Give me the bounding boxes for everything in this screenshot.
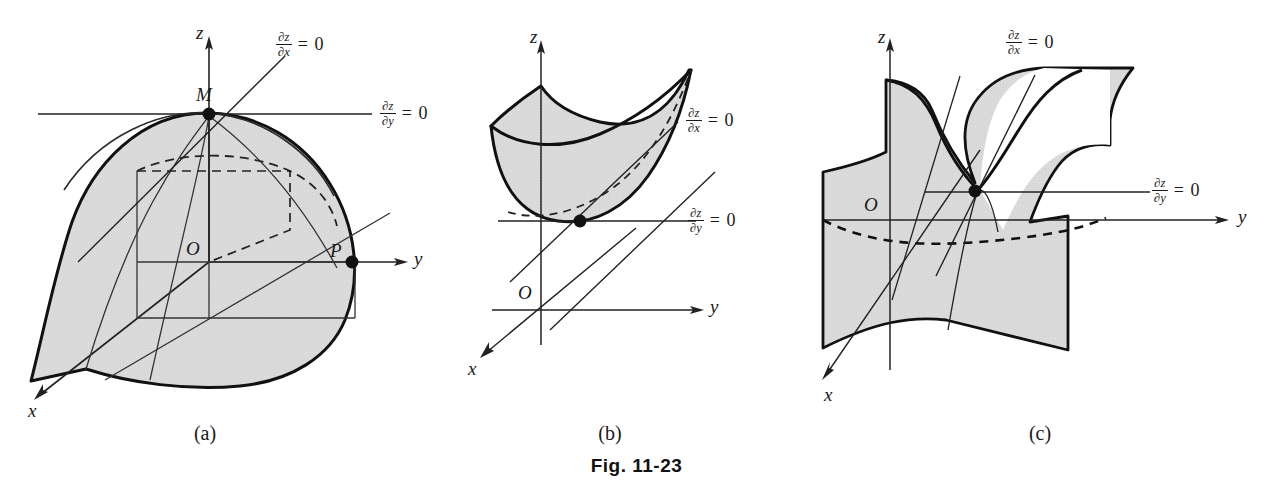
point-minimum-dot (574, 215, 587, 228)
x-axis-arrow (480, 342, 494, 358)
panel-c-dz-dy-label: ∂z ∂y = 0 (1152, 176, 1200, 205)
figure-11-23: z y x O M P ∂z ∂x = 0 ∂z ∂y = 0 (0, 0, 1273, 503)
panel-b-drawing (440, 0, 820, 440)
panel-a-z-axis-label: z (196, 22, 203, 44)
panel-a-dz-dx-label: ∂z ∂x = 0 (276, 30, 324, 59)
panel-c-y-axis-label: y (1238, 206, 1246, 228)
panel-b-dz-dx-equals: = 0 (708, 110, 735, 131)
panel-b-y-axis-label: y (710, 296, 718, 318)
panel-b-relative-minimum: z y x O ∂z ∂x = 0 ∂z ∂y = 0 (440, 0, 820, 440)
panel-c-saddle-point: z y x O ∂z ∂x = 0 ∂z ∂y = 0 (820, 0, 1273, 440)
panel-b-dz-dx-label: ∂z ∂x = 0 (686, 106, 734, 135)
panel-c-x-axis-label: x (824, 384, 832, 406)
panel-a-origin-label: O (186, 238, 200, 260)
point-saddle-dot (969, 185, 982, 198)
panel-c-sublabel: (c) (1000, 422, 1080, 445)
figure-caption: Fig. 11-23 (0, 455, 1273, 477)
panel-a-dz-dx-fraction: ∂z ∂x (276, 30, 292, 59)
panel-a-y-axis-label: y (414, 248, 422, 270)
panel-a-drawing (0, 0, 440, 440)
x-axis (487, 228, 636, 352)
panel-b-x-axis-label: x (468, 358, 476, 380)
panel-c-dz-dy-equals: = 0 (1174, 180, 1201, 201)
panel-a-point-P-label: P (330, 240, 342, 262)
point-M-dot (203, 108, 216, 121)
panel-a-dz-dy-fraction: ∂z ∂y (380, 99, 396, 128)
panel-b-dz-dy-label: ∂z ∂y = 0 (688, 206, 736, 235)
surface-bowl (491, 70, 691, 222)
panel-a-dz-dy-equals: = 0 (402, 103, 429, 124)
panel-c-origin-label: O (864, 194, 878, 216)
panel-c-dz-dx-label: ∂z ∂x = 0 (1006, 28, 1054, 57)
panel-c-dz-dx-fraction: ∂z ∂x (1006, 28, 1022, 57)
panel-c-drawing (820, 0, 1273, 440)
panel-a-dz-dy-label: ∂z ∂y = 0 (380, 99, 428, 128)
panel-a-point-M-label: M (196, 84, 212, 106)
panel-c-z-axis-label: z (878, 26, 885, 48)
panel-b-dz-dx-fraction: ∂z ∂x (686, 106, 702, 135)
panel-c-dz-dx-equals: = 0 (1028, 32, 1055, 53)
panel-c-dz-dy-fraction: ∂z ∂y (1152, 176, 1168, 205)
panel-b-sublabel: (b) (570, 422, 650, 445)
panel-b-z-axis-label: z (530, 26, 537, 48)
panel-b-dz-dy-fraction: ∂z ∂y (688, 206, 704, 235)
point-P-dot (346, 256, 359, 269)
x-axis-arrow (34, 384, 48, 400)
panel-a-sublabel: (a) (165, 422, 245, 445)
panel-a-dz-dx-equals: = 0 (298, 34, 325, 55)
panel-b-origin-label: O (518, 282, 532, 304)
panel-a-x-axis-label: x (28, 400, 36, 422)
panel-a-relative-maximum: z y x O M P ∂z ∂x = 0 ∂z ∂y = 0 (0, 0, 440, 440)
panel-b-dz-dy-equals: = 0 (710, 210, 737, 231)
